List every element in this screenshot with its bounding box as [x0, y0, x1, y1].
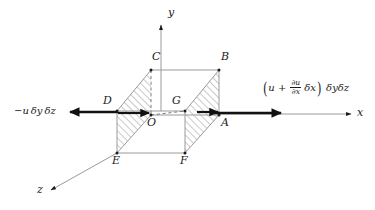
inflow-force-label: −uδyδz — [14, 106, 56, 116]
edge-O-G-dashed — [151, 111, 185, 115]
vertex-dot-C — [150, 69, 153, 72]
vertex-dot-D — [116, 110, 119, 113]
figure-canvas: y x z A B C D E F G O −uδyδz (u + ∂u∂xδx… — [0, 0, 375, 210]
vertex-label-E: E — [112, 155, 120, 166]
vertex-dot-G — [184, 110, 187, 113]
inflow-dy: δy — [31, 105, 43, 116]
outflow-plus-sign: + — [278, 82, 286, 93]
outflow-frac-denominator: ∂x — [290, 88, 301, 96]
inflow-u: u — [22, 105, 28, 116]
axis-label-y: y — [168, 7, 174, 18]
vertex-label-B: B — [221, 51, 229, 62]
outflow-partial-fraction: ∂u∂x — [290, 79, 301, 96]
inflow-dz: δz — [45, 105, 56, 116]
vertex-label-C: C — [152, 51, 160, 62]
hidden-edges — [151, 70, 185, 115]
vertex-label-G: G — [172, 95, 181, 106]
vertex-label-F: F — [180, 155, 188, 166]
outflow-u: u — [268, 82, 274, 93]
vertex-label-D: D — [103, 95, 112, 106]
outflow-paren-close: ) — [317, 81, 322, 97]
outflow-dz: δz — [338, 82, 349, 93]
axis-label-x: x — [357, 107, 363, 118]
outflow-paren-open: ( — [263, 81, 268, 97]
vertex-dot-B — [218, 69, 221, 72]
axis-z-line — [51, 153, 117, 190]
outflow-dx: δx — [304, 82, 316, 93]
vertex-label-O: O — [147, 117, 156, 128]
outflow-force-label: (u + ∂u∂xδx)δyδz — [262, 79, 349, 97]
vertex-label-A: A — [221, 117, 229, 128]
axis-label-z: z — [37, 184, 43, 195]
diagram-svg — [0, 0, 375, 210]
outflow-dy: δy — [326, 82, 338, 93]
